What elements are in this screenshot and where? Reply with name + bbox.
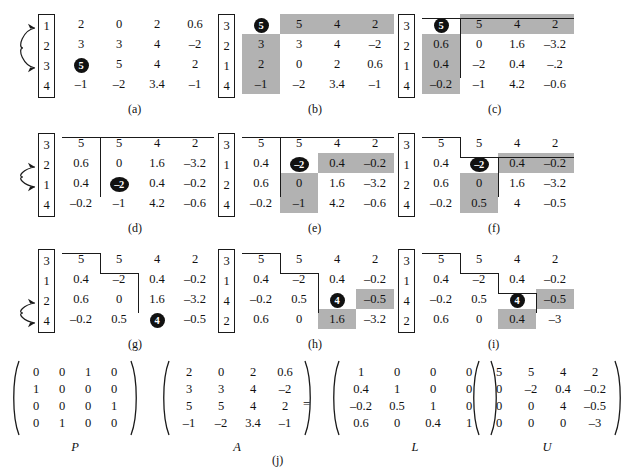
matrix-cell: 0.6 <box>356 54 394 74</box>
matrix-cell: 4 <box>138 133 176 153</box>
matrix-cell: –2 <box>280 269 318 289</box>
partition-line <box>422 137 460 138</box>
matrix-cell: 0 <box>49 364 75 381</box>
matrix-cell: 5 <box>242 249 280 269</box>
partition-line <box>280 137 281 197</box>
right-paren <box>129 360 140 436</box>
matrix-cell: –1 <box>356 74 394 94</box>
matrix-cell: –2 <box>460 269 498 289</box>
matrix-cell: –0.2 <box>356 269 394 289</box>
perm-index: 2 <box>219 311 234 331</box>
partition-line <box>498 157 499 197</box>
matrix-cell: 4 <box>318 14 356 34</box>
matrix-cell: 2 <box>176 249 214 269</box>
perm-index: 1 <box>219 56 234 76</box>
pivot-cell: 5 <box>242 14 280 34</box>
matrix-cell: –0.2 <box>62 309 100 329</box>
left-paren <box>330 360 341 436</box>
matrix-cell: 2 <box>269 398 301 415</box>
matrix-cell: 0.6 <box>422 34 460 54</box>
matrix-cell: 0.5 <box>379 398 415 415</box>
matrix-cell: –0.2 <box>422 289 460 309</box>
matrix-cell: –3.2 <box>176 153 214 173</box>
matrix-cell: 3 <box>242 34 280 54</box>
matrix-cell: 2 <box>579 364 611 381</box>
perm-index: 2 <box>399 175 414 195</box>
matrix-cell: 4.2 <box>138 193 176 213</box>
perm-index: 2 <box>219 175 234 195</box>
matrix-cell: 4 <box>237 381 269 398</box>
matrix-cell: –0.2 <box>536 269 574 289</box>
matrix-cell: 4 <box>498 14 536 34</box>
matrix-cell: 0 <box>101 381 127 398</box>
matrix-cell: –2 <box>176 34 214 54</box>
perm-index: 2 <box>219 36 234 56</box>
matrix-cell: 0.4 <box>547 381 579 398</box>
matrix-cell: –1 <box>173 415 205 432</box>
perm-index: 1 <box>39 16 54 36</box>
matrix-cell: 0.4 <box>138 269 176 289</box>
partition-line <box>498 293 536 294</box>
matrix-cell: –0.2 <box>343 398 379 415</box>
partition-line <box>280 253 281 273</box>
pivot-marker: –2 <box>470 157 489 172</box>
matrix-a: 2020.6334–25542–1–23.4–1 <box>62 14 214 94</box>
elimination-panel-grid: 12342020.6334–25542–1–23.4–1(a)321455423… <box>0 0 565 360</box>
matrix-cell: –3 <box>536 309 574 329</box>
partition-line <box>242 137 394 138</box>
matrix-p: 0010100000010100 <box>10 360 140 436</box>
matrix-cell: 1.6 <box>498 173 536 193</box>
pivot-marker: 5 <box>254 18 269 33</box>
panel-e: 312455420.4–20.4–0.20.601.6–3.2–0.2–14.2… <box>218 133 394 217</box>
matrix-cell: 0.4 <box>422 269 460 289</box>
panel-f: 312455420.4–20.4–0.20.601.6–3.2–0.20.54–… <box>398 133 574 217</box>
panel-caption-b: (b) <box>308 102 322 117</box>
matrix-cell: 4 <box>318 249 356 269</box>
matrix-cell: 0 <box>75 398 101 415</box>
matrix-cell: 0 <box>100 14 138 34</box>
perm-index: 3 <box>39 56 54 76</box>
partition-line <box>280 273 318 274</box>
matrix-cell: –1 <box>460 74 498 94</box>
partition-line <box>422 253 460 254</box>
matrix-cell: 5 <box>280 133 318 153</box>
matrix-label-p: P <box>10 440 140 455</box>
matrix-cell: –0.2 <box>422 74 460 94</box>
matrix-b: 5542334–22020.6–1–23.4–1 <box>242 14 394 94</box>
perm-index: 3 <box>219 135 234 155</box>
matrix-cell: –0.6 <box>176 193 214 213</box>
matrix-cell: 3.4 <box>237 415 269 432</box>
perm-index: 3 <box>39 251 54 271</box>
perm-index: 3 <box>219 251 234 271</box>
matrix-cell: –2 <box>280 74 318 94</box>
panel-caption-g: (g) <box>128 337 142 352</box>
matrix-cell: 5 <box>205 398 237 415</box>
matrix-cell: 2 <box>356 133 394 153</box>
panel-caption-j: (j) <box>272 453 283 468</box>
matrix-cell: –1 <box>100 193 138 213</box>
partition-line <box>498 273 499 293</box>
matrix-cell: –0.5 <box>536 193 574 213</box>
matrix-cell: 0.4 <box>318 153 356 173</box>
matrix-cell: –0.2 <box>422 193 460 213</box>
matrix-cell: –.2 <box>536 54 574 74</box>
permutation-index-column: 3214 <box>398 14 415 98</box>
panel-caption-e: (e) <box>308 221 321 236</box>
matrix-cell: –0.2 <box>536 153 574 173</box>
perm-index: 4 <box>219 195 234 215</box>
matrix-cell: –0.2 <box>62 193 100 213</box>
matrix-cell: 2 <box>536 133 574 153</box>
matrix-cell: –3 <box>579 415 611 432</box>
matrix-label-u: U <box>470 440 624 455</box>
panel-caption-h: (h) <box>308 337 322 352</box>
matrix-cell: 0.4 <box>498 54 536 74</box>
matrix-cell: 0.4 <box>498 269 536 289</box>
matrix-cell: 0.5 <box>460 289 498 309</box>
matrix-cell: 1.6 <box>318 173 356 193</box>
perm-index: 3 <box>39 135 54 155</box>
perm-index: 4 <box>39 76 54 96</box>
partition-line <box>138 273 139 313</box>
perm-index: 4 <box>399 291 414 311</box>
matrix-cell: 4 <box>547 364 579 381</box>
matrix-cell: 5 <box>173 398 205 415</box>
